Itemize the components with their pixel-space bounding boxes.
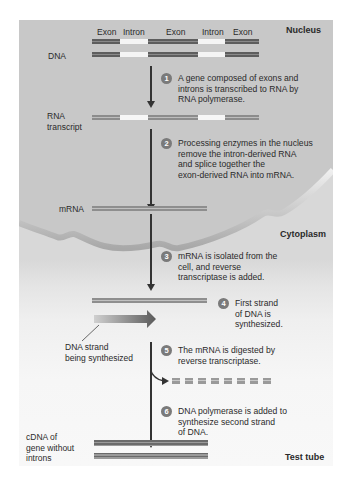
step-4-text: First strand of DNA is synthesized. bbox=[235, 298, 283, 329]
step-6: 6 DNA polymerase is added to synthesize … bbox=[178, 406, 287, 438]
step-6-badge: 6 bbox=[161, 406, 172, 417]
nucleus-label: Nucleus bbox=[286, 25, 321, 35]
step-5: 5 The mRNA is digested by reverse transc… bbox=[178, 345, 275, 366]
step-1-badge: 1 bbox=[161, 73, 172, 84]
step-2-badge: 2 bbox=[161, 138, 172, 149]
test-tube-label: Test tube bbox=[285, 452, 324, 462]
step-1: 1 A gene composed of exons and introns i… bbox=[178, 73, 298, 105]
arrow-step-1 bbox=[150, 66, 152, 102]
step-1-text: A gene composed of exons and introns is … bbox=[178, 73, 298, 104]
arrow-step-3 bbox=[150, 214, 152, 285]
segment-label-exon-3: Exon bbox=[233, 27, 252, 37]
step-4: 4 First strand of DNA is synthesized. bbox=[235, 298, 283, 330]
step-2: 2 Processing enzymes in the nucleus remo… bbox=[178, 138, 313, 180]
mrna-strand bbox=[92, 206, 207, 211]
segment-label-exon-1: Exon bbox=[97, 27, 116, 37]
segment-label-intron-2: Intron bbox=[202, 27, 224, 37]
step-3-text: mRNA is isolated from the cell, and reve… bbox=[178, 251, 277, 282]
diagram-frame: Nucleus Cytoplasm Test tube Exon Intron … bbox=[19, 20, 333, 466]
segment-label-exon-2: Exon bbox=[166, 27, 185, 37]
step-5-text: The mRNA is digested by reverse transcri… bbox=[178, 345, 275, 366]
arrow-step-5-6 bbox=[150, 342, 152, 442]
step-4-badge: 4 bbox=[218, 298, 229, 309]
mrna-label: mRNA bbox=[59, 204, 84, 214]
dna-label: DNA bbox=[48, 51, 66, 61]
step-3: 3 mRNA is isolated from the cell, and re… bbox=[178, 251, 277, 283]
step-3-badge: 3 bbox=[161, 251, 172, 262]
step-2-text: Processing enzymes in the nucleus remove… bbox=[178, 138, 313, 180]
segment-label-intron-1: Intron bbox=[123, 27, 145, 37]
step-5-badge: 5 bbox=[161, 345, 172, 356]
dna-strand-synthesizing-label: DNA strand being synthesized bbox=[65, 342, 133, 364]
cytoplasm-label: Cytoplasm bbox=[280, 229, 326, 239]
arrowhead-icon bbox=[147, 101, 155, 108]
cdna-label: cDNA of gene without introns bbox=[26, 432, 74, 464]
mrna-template-strand bbox=[92, 298, 207, 303]
digest-branch-arrow-icon bbox=[150, 366, 180, 388]
arrowhead-icon bbox=[147, 284, 155, 291]
step-6-text: DNA polymerase is added to synthesize se… bbox=[178, 406, 287, 437]
arrow-step-2 bbox=[150, 129, 152, 205]
rna-transcript-label: RNA transcript bbox=[47, 111, 82, 133]
